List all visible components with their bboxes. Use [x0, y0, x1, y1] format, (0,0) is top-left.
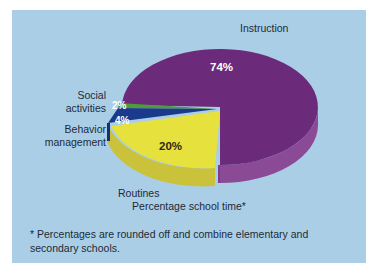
- slice-label-social-activities: Social activities: [22, 89, 106, 114]
- slice-label-social-activities-line2: activities: [66, 102, 106, 114]
- slice-side-instruction-left: [218, 165, 220, 183]
- slice-label-behavior-management-line1: Behavior: [65, 123, 106, 135]
- slice-label-social-activities-line1: Social: [77, 89, 106, 101]
- chart-footnote-line1: * Percentages are rounded off and combin…: [30, 228, 308, 240]
- slice-side-behavior: [107, 123, 110, 141]
- chart-footnote-line2: secondary schools.: [30, 242, 120, 254]
- slice-label-behavior-management-line2: management: [45, 136, 106, 148]
- slice-value-routines: 20%: [159, 141, 182, 152]
- slice-value-behavior-management: 4%: [115, 115, 129, 126]
- chart-footnote: * Percentages are rounded off and combin…: [30, 228, 350, 255]
- chart-panel: 74% 20% 4% 2% Instruction Social activit…: [12, 10, 366, 263]
- slice-label-behavior-management: Behavior management: [14, 123, 106, 148]
- slice-value-social-activities: 2%: [112, 100, 126, 111]
- slice-label-routines: Routines: [118, 187, 159, 200]
- slice-label-instruction: Instruction: [240, 22, 288, 35]
- slice-value-instruction: 74%: [210, 62, 233, 73]
- chart-caption: Percentage school time*: [12, 200, 366, 212]
- figure-container: 74% 20% 4% 2% Instruction Social activit…: [0, 0, 381, 277]
